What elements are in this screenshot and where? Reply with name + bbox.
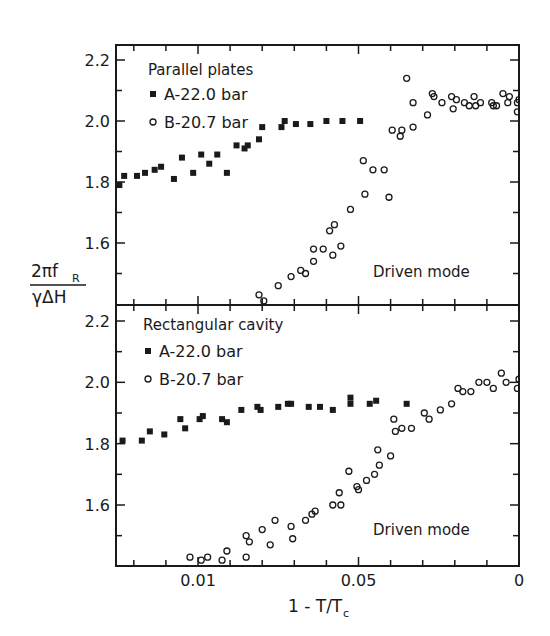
point-square	[317, 404, 323, 410]
point-circle	[381, 167, 387, 173]
x-tick-label: 0.05	[341, 571, 377, 590]
point-circle	[243, 554, 249, 560]
point-circle	[449, 401, 455, 407]
point-circle	[421, 410, 427, 416]
legend-label: A-22.0 bar	[159, 342, 243, 361]
point-circle	[311, 246, 317, 252]
y-axis-label-subscript: R	[72, 272, 80, 285]
point-square	[288, 401, 294, 407]
legend-circle-icon	[150, 119, 156, 125]
point-circle	[331, 222, 337, 228]
point-square	[177, 416, 183, 422]
point-square	[152, 167, 158, 173]
point-square	[134, 173, 140, 179]
point-square	[323, 118, 329, 124]
point-circle	[187, 554, 193, 560]
annotation-driven-mode: Driven mode	[373, 263, 470, 281]
legend-label: B-20.7 bar	[159, 370, 243, 389]
point-square	[306, 404, 312, 410]
y-tick-label: 1.6	[85, 234, 110, 253]
point-circle	[503, 379, 509, 385]
x-tick-label: 0	[514, 571, 524, 590]
y-tick-label: 2.2	[85, 51, 110, 70]
point-circle	[360, 158, 366, 164]
point-circle	[460, 389, 466, 395]
point-square	[278, 124, 284, 130]
y-axis-label-denominator: γΔH	[32, 287, 66, 307]
point-circle	[267, 542, 273, 548]
point-circle	[375, 447, 381, 453]
point-square	[120, 438, 126, 444]
point-circle	[425, 112, 431, 118]
point-square	[357, 118, 363, 124]
point-circle	[484, 379, 490, 385]
point-square	[347, 401, 353, 407]
point-circle	[372, 471, 378, 477]
point-circle	[450, 106, 456, 112]
point-square	[293, 121, 299, 127]
point-circle	[256, 292, 262, 298]
point-circle	[290, 536, 296, 542]
point-square	[161, 431, 167, 437]
x-tick-label: 0.01	[180, 571, 216, 590]
point-circle	[330, 252, 336, 258]
point-square	[258, 407, 264, 413]
panel-rectangular-cavity: 2.22.01.81.6Rectangular cavityA-22.0 bar…	[85, 305, 522, 566]
point-circle	[336, 490, 342, 496]
point-square	[224, 419, 230, 425]
point-circle	[327, 228, 333, 234]
point-circle	[275, 283, 281, 289]
panel-title: Parallel plates	[148, 61, 253, 79]
panel-parallel-plates: 2.22.01.81.6Parallel platesA-22.0 barB-2…	[85, 45, 522, 305]
point-square	[373, 398, 379, 404]
point-square	[182, 425, 188, 431]
y-tick-label: 1.8	[85, 173, 110, 192]
y-tick-label: 1.6	[85, 496, 110, 515]
point-square	[179, 155, 185, 161]
y-tick-label: 2.2	[85, 312, 110, 331]
panel-title: Rectangular cavity	[143, 316, 283, 334]
point-square	[142, 170, 148, 176]
point-circle	[426, 416, 432, 422]
point-circle	[376, 462, 382, 468]
point-circle	[506, 94, 512, 100]
point-circle	[364, 477, 370, 483]
legend-square-icon	[145, 348, 151, 354]
x-axis-label: 1 - T/T	[288, 596, 343, 616]
point-circle	[453, 97, 459, 103]
point-circle	[303, 271, 309, 277]
point-square	[339, 118, 345, 124]
point-circle	[246, 539, 252, 545]
point-circle	[410, 100, 416, 106]
point-square	[238, 407, 244, 413]
point-circle	[490, 385, 496, 391]
point-square	[190, 170, 196, 176]
annotation-driven-mode: Driven mode	[373, 521, 470, 539]
point-circle	[311, 258, 317, 264]
y-axis-label-numerator: 2πf	[31, 261, 59, 281]
point-circle	[386, 194, 392, 200]
legend-label: B-20.7 bar	[164, 113, 248, 132]
point-circle	[399, 425, 405, 431]
point-circle	[205, 554, 211, 560]
point-circle	[404, 75, 410, 81]
y-tick-label: 1.8	[85, 435, 110, 454]
point-square	[404, 401, 410, 407]
y-tick-label: 2.0	[85, 373, 110, 392]
point-circle	[338, 243, 344, 249]
point-circle	[397, 133, 403, 139]
legend-circle-icon	[145, 376, 151, 382]
point-circle	[330, 502, 336, 508]
point-circle	[468, 389, 474, 395]
point-square	[256, 136, 262, 142]
point-circle	[259, 527, 265, 533]
point-square	[206, 161, 212, 167]
point-square	[158, 164, 164, 170]
point-circle	[476, 379, 482, 385]
point-circle	[500, 91, 506, 97]
point-square	[147, 428, 153, 434]
point-square	[198, 152, 204, 158]
point-circle	[466, 103, 472, 109]
point-circle	[362, 191, 368, 197]
point-circle	[391, 416, 397, 422]
